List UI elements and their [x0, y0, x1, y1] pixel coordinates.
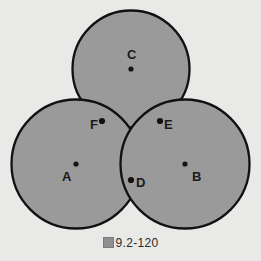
label-center-c: C: [127, 48, 137, 61]
center-dot-b: [182, 161, 187, 166]
cjk-tu-glyph: [103, 237, 114, 248]
caption-number: 9.2-120: [116, 236, 159, 250]
label-center-b: B: [192, 170, 202, 183]
label-center-a: A: [62, 170, 72, 183]
tangency-dot-d: [128, 177, 134, 183]
center-dot-c: [128, 66, 133, 71]
three-tangent-circles-diagram: [0, 0, 261, 261]
label-tangent-e: E: [164, 118, 173, 131]
tangency-dot-e: [157, 118, 163, 124]
center-dot-a: [73, 161, 78, 166]
label-tangent-f: F: [90, 118, 98, 131]
figure-container: A B C D E F 9.2-120: [0, 0, 261, 261]
tangency-dot-f: [99, 118, 105, 124]
figure-caption: 9.2-120: [0, 236, 261, 250]
label-tangent-d: D: [136, 176, 146, 189]
